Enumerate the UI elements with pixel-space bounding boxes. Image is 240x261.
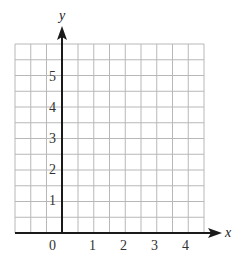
x-tick-label: 3 xyxy=(151,238,158,253)
y-tick-label: 3 xyxy=(49,131,56,146)
x-tick-label: 2 xyxy=(120,238,127,253)
y-axis-label: y xyxy=(57,8,66,23)
coordinate-grid: x y 0 1 2 3 4 1 2 3 4 5 xyxy=(0,0,240,261)
y-tick-label: 1 xyxy=(49,193,56,208)
y-tick-label: 5 xyxy=(49,69,56,84)
y-tick-label: 2 xyxy=(49,162,56,177)
grid-lines xyxy=(15,44,204,233)
x-tick-label: 4 xyxy=(182,238,189,253)
y-tick-label: 4 xyxy=(49,100,56,115)
x-tick-label: 1 xyxy=(89,238,96,253)
x-tick-label: 0 xyxy=(49,238,56,253)
x-axis-label: x xyxy=(224,225,232,240)
